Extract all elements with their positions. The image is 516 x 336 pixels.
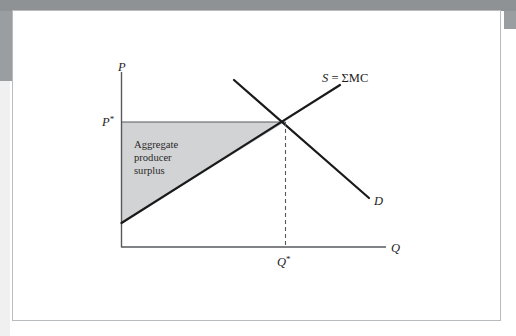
surplus-annotation-line-3: surplus	[134, 165, 165, 176]
surplus-annotation-line-2: producer	[134, 152, 172, 163]
supply-curve-label: S = ΣMC	[322, 71, 368, 85]
equilibrium-quantity-label: Q*	[277, 254, 291, 269]
equilibrium-price-star: *	[110, 114, 115, 124]
equilibrium-quantity-star: *	[286, 254, 291, 264]
screenshot-root: P P* Q Q* S = ΣMC D Aggregate producer s…	[0, 0, 516, 336]
demand-curve-label: D	[373, 194, 383, 208]
quantity-axis-label: Q	[391, 241, 400, 255]
equilibrium-quantity-letter: Q	[277, 255, 286, 269]
equilibrium-price-label: P*	[101, 114, 115, 129]
supply-curve-label-rest: = ΣMC	[328, 71, 368, 85]
supply-demand-figure: P P* Q Q* S = ΣMC D Aggregate producer s…	[0, 0, 516, 336]
price-axis-label: P	[117, 60, 126, 74]
surplus-annotation-line-1: Aggregate	[134, 139, 178, 150]
equilibrium-price-letter: P	[101, 115, 110, 129]
